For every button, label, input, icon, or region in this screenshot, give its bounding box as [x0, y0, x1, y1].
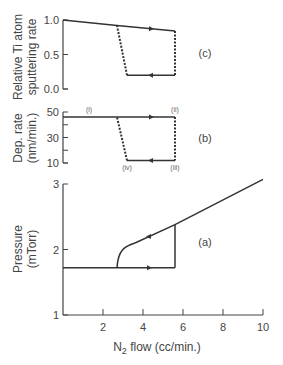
x-tick-label: 10	[257, 321, 269, 333]
y-axis-title: (mTorr)	[25, 230, 39, 269]
y-tick-label: 2	[53, 244, 59, 256]
x-tick-label: 6	[180, 321, 186, 333]
arrow-right-icon	[147, 265, 152, 270]
point-label: (iv)	[122, 164, 132, 172]
series-line	[117, 26, 127, 76]
y-tick-label: 10	[47, 157, 59, 169]
point-label: (i)	[86, 106, 92, 114]
y-tick-label: 30	[47, 132, 59, 144]
y-tick-label: 50	[47, 106, 59, 118]
series-line	[117, 243, 135, 268]
point-label: (ii)	[171, 106, 179, 114]
panel-label: (a)	[198, 236, 211, 248]
y-tick-label: 1	[53, 309, 59, 321]
point-label: (iii)	[170, 164, 179, 172]
panel-label: (b)	[198, 132, 211, 144]
y-tick-label: 1.0	[44, 14, 59, 26]
y-tick-label: 0.5	[44, 49, 59, 61]
panel-c: 1.00.50.0Relative Ti atomsputtering rate…	[11, 14, 211, 100]
x-tick-label: 8	[220, 321, 226, 333]
arrow-left-icon	[148, 158, 153, 163]
y-axis-title: Dep. rate	[11, 113, 25, 163]
y-tick-label: 0.0	[44, 83, 59, 95]
y-tick-label: 3	[53, 178, 59, 190]
arrow-left-icon	[148, 73, 153, 78]
y-axis-title: Pressure	[11, 225, 25, 273]
arrow-right-icon	[149, 26, 154, 31]
x-axis-title: N2 flow (cc/min.)	[113, 340, 201, 356]
figure: 1.00.50.0Relative Ti atomsputtering rate…	[0, 0, 283, 365]
panel-b: 503010Dep. rate(nm/min.)(b)(i)(ii)(iii)(…	[11, 106, 212, 172]
panel-label: (c)	[199, 47, 212, 59]
x-tick-label: 2	[100, 321, 106, 333]
series-line	[135, 179, 263, 243]
x-tick-label: 4	[140, 321, 146, 333]
arrow-right-icon	[149, 115, 154, 120]
y-axis-title: sputtering rate	[25, 18, 39, 95]
series-line	[63, 20, 175, 31]
panel-a: 321Pressure(mTorr)(a)246810N2 flow (cc/m…	[11, 178, 269, 356]
y-axis-title: (nm/min.)	[25, 113, 39, 164]
y-axis-title: Relative Ti atom	[11, 14, 25, 100]
series-line	[117, 117, 127, 160]
